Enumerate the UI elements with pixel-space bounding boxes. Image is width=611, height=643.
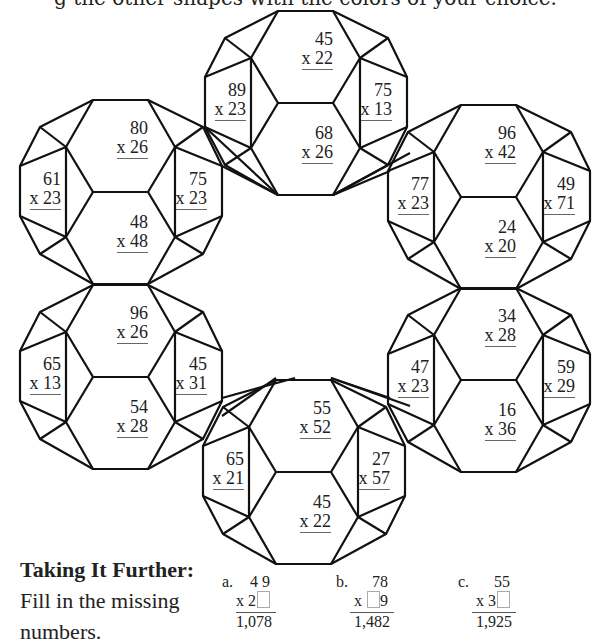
problem-upper-left-bottom: 48x 48 bbox=[117, 213, 149, 253]
missing-digit-box[interactable] bbox=[497, 591, 510, 608]
problem-top-right: 75x 13 bbox=[361, 81, 393, 121]
problem-bottom-bottom: 45x 22 bbox=[300, 493, 332, 533]
problem-lower-left-top: 96x 26 bbox=[117, 304, 149, 344]
problem-top-bottom: 68x 26 bbox=[302, 124, 334, 164]
product: 1,078 bbox=[236, 613, 272, 631]
missing-digit-box[interactable] bbox=[367, 591, 380, 608]
problem-lower-left-right: 45x 31 bbox=[176, 355, 208, 395]
instruction-line-1: Fill in the missing bbox=[20, 585, 194, 616]
problem-lower-left-bottom: 54x 28 bbox=[117, 398, 149, 438]
problem-upper-left-right: 75x 23 bbox=[176, 170, 208, 210]
problem-top-top: 45x 22 bbox=[302, 30, 334, 70]
problem-bottom-right: 27x 57 bbox=[359, 450, 391, 490]
multiplicand: 55 bbox=[494, 573, 510, 591]
question-b: b. 78 x 9 1,482 bbox=[336, 573, 388, 633]
missing-digit-box[interactable] bbox=[257, 591, 270, 608]
problem-lower-right-right: 59x 29 bbox=[544, 358, 576, 398]
problem-upper-right-right: 49x 71 bbox=[544, 175, 576, 215]
section-title: Taking It Further: bbox=[20, 555, 194, 585]
problem-lower-right-top: 34x 28 bbox=[485, 307, 517, 347]
product: 1,925 bbox=[476, 613, 512, 631]
problem-bottom-top: 55x 52 bbox=[300, 399, 332, 439]
multiplicand: 78 bbox=[372, 573, 388, 591]
problem-lower-right-left: 47x 23 bbox=[398, 358, 430, 398]
problem-upper-right-bottom: 24x 20 bbox=[485, 218, 517, 258]
product: 1,482 bbox=[354, 613, 390, 631]
problem-top-left: 89x 23 bbox=[215, 81, 247, 121]
taking-it-further: Taking It Further: Fill in the missing n… bbox=[20, 555, 194, 643]
problem-upper-right-left: 77x 23 bbox=[398, 175, 430, 215]
instruction-line-2: numbers. bbox=[20, 616, 194, 643]
question-label: b. bbox=[336, 573, 348, 591]
question-label: a. bbox=[222, 573, 233, 591]
problem-upper-left-left: 61x 23 bbox=[30, 170, 62, 210]
question-label: c. bbox=[458, 573, 469, 591]
problem-upper-right-top: 96x 42 bbox=[485, 124, 517, 164]
multiplier: x 9 bbox=[354, 591, 388, 610]
question-c: c. 55 x 3 1,925 bbox=[458, 573, 510, 633]
multiplier: x 2 bbox=[236, 591, 270, 610]
multiplicand: 4 9 bbox=[250, 573, 270, 591]
problem-upper-left-top: 80x 26 bbox=[117, 119, 149, 159]
question-a: a. 4 9 x 2 1,078 bbox=[222, 573, 270, 633]
problem-bottom-left: 65x 21 bbox=[213, 450, 245, 490]
problem-lower-right-bottom: 16x 36 bbox=[485, 401, 517, 441]
multiplier: x 3 bbox=[476, 591, 510, 610]
problem-lower-left-left: 65x 13 bbox=[30, 355, 62, 395]
